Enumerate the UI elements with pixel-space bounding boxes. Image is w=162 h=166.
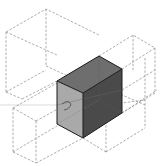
- solid-box: [57, 56, 122, 138]
- diagram-canvas: [0, 0, 162, 166]
- isometric-diagram: [0, 0, 162, 166]
